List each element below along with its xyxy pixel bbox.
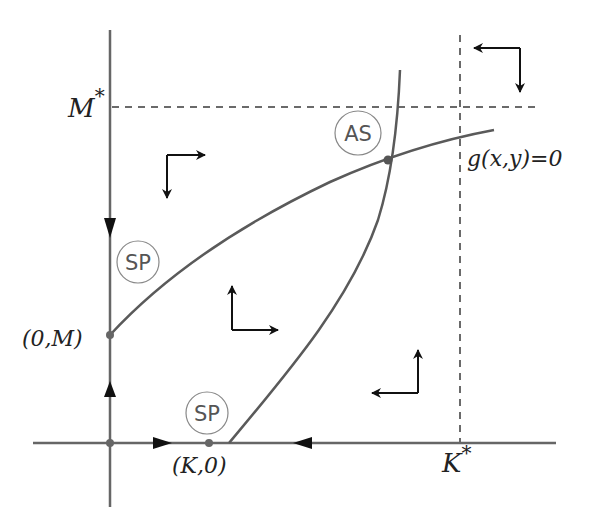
k-star-label: K* [441,441,471,478]
sp-badge-upper-label: SP [125,251,151,275]
point-0m-label: (0,M) [22,326,83,351]
as-badge-label: AS [344,122,372,146]
y-axis-down-arrow-icon [104,218,116,238]
x-axis-right-arrow-icon [153,437,172,449]
point-k0-label: (K,0) [172,453,227,478]
origin-equilibrium-dot [106,439,114,447]
k0-equilibrium-dot [205,439,213,447]
m-star-label: M* [67,84,105,123]
sp-badge-upper: SP [117,241,159,283]
direction-arrows-top-right [474,48,520,92]
sp-badge-lower: SP [186,392,228,434]
y-axis-up-arrow-icon [104,381,116,397]
0m-equilibrium-dot [106,331,114,339]
direction-arrows-middle [232,286,278,330]
g-nullcline-label: g(x,y)=0 [467,146,563,171]
direction-arrows-lower-right [372,350,418,393]
as-badge: AS [335,111,381,155]
x-axis-left-arrow-icon [293,437,312,449]
sp-badge-lower-label: SP [194,402,220,426]
interior-equilibrium-dot [384,156,393,165]
phase-plane-diagram: SP SP AS M* K* g(x,y)=0 (0,M) (K,0) [0,0,604,527]
direction-arrows-upper-left [167,155,205,198]
